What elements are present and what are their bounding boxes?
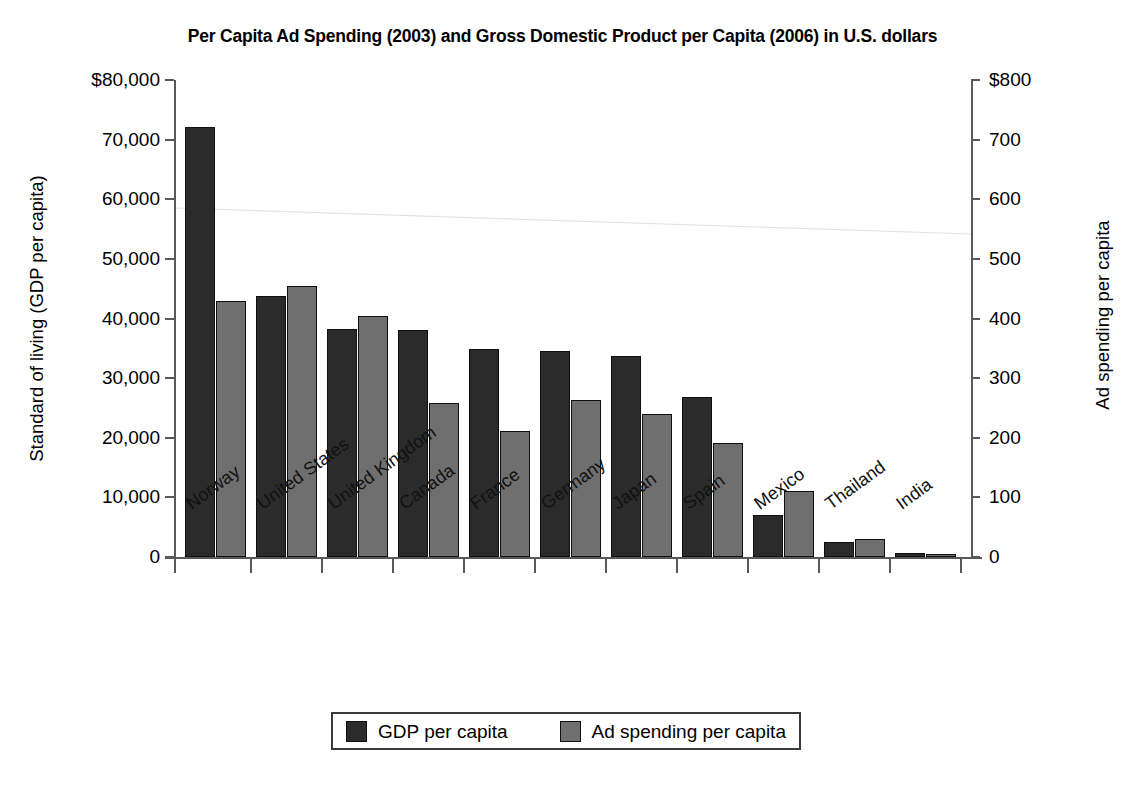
bar-gdp-per-capita[interactable] bbox=[469, 349, 499, 557]
legend-item[interactable]: GDP per capita bbox=[346, 721, 508, 742]
bar-gdp-per-capita[interactable] bbox=[256, 296, 286, 557]
bar-ad-spending-per-capita[interactable] bbox=[358, 316, 388, 557]
x-axis-tick bbox=[889, 559, 891, 573]
x-axis-tick bbox=[463, 559, 465, 573]
bar-ad-spending-per-capita[interactable] bbox=[216, 301, 246, 557]
left-axis-tick-label: 40,000 bbox=[10, 309, 176, 328]
chart-title: Per Capita Ad Spending (2003) and Gross … bbox=[0, 26, 1125, 47]
chart-legend: GDP per capitaAd spending per capita bbox=[331, 712, 801, 750]
right-axis-tick-label: 300 bbox=[971, 368, 1021, 387]
right-axis-tick-label: $800 bbox=[971, 70, 1031, 89]
bar-ad-spending-per-capita[interactable] bbox=[926, 554, 956, 557]
bar-gdp-per-capita[interactable] bbox=[895, 553, 925, 557]
x-axis-tick bbox=[747, 559, 749, 573]
x-axis-tick bbox=[605, 559, 607, 573]
right-axis-tick-label: 500 bbox=[971, 249, 1021, 268]
chart-container: Per Capita Ad Spending (2003) and Gross … bbox=[0, 0, 1125, 799]
right-axis-tick-label: 600 bbox=[971, 189, 1021, 208]
legend-swatch bbox=[560, 721, 581, 742]
right-axis-tick-label: 700 bbox=[971, 130, 1021, 149]
y-axis-title-right: Ad spending per capita bbox=[1090, 150, 1116, 480]
legend-item[interactable]: Ad spending per capita bbox=[560, 721, 786, 742]
left-axis-tick-label: 60,000 bbox=[10, 189, 176, 208]
left-axis-tick-label: 10,000 bbox=[10, 487, 176, 506]
right-axis-tick-label: 200 bbox=[971, 428, 1021, 447]
left-axis-tick-label: 30,000 bbox=[10, 368, 176, 387]
bar-gdp-per-capita[interactable] bbox=[611, 356, 641, 557]
right-axis-tick-label: 0 bbox=[971, 547, 1000, 566]
bar-ad-spending-per-capita[interactable] bbox=[784, 491, 814, 557]
x-axis-tick bbox=[321, 559, 323, 573]
legend-label: GDP per capita bbox=[378, 722, 508, 741]
left-axis-tick-label: 20,000 bbox=[10, 428, 176, 447]
left-axis-tick-label: 70,000 bbox=[10, 130, 176, 149]
bar-gdp-per-capita[interactable] bbox=[753, 515, 783, 557]
bar-ad-spending-per-capita[interactable] bbox=[855, 539, 885, 557]
x-axis-tick bbox=[174, 559, 176, 573]
x-axis-tick bbox=[392, 559, 394, 573]
x-axis-tick bbox=[534, 559, 536, 573]
legend-swatch bbox=[346, 721, 367, 742]
left-axis-tick-label: $80,000 bbox=[10, 70, 176, 89]
x-axis-line bbox=[165, 557, 982, 559]
x-axis-tick bbox=[960, 559, 962, 573]
bar-gdp-per-capita[interactable] bbox=[540, 351, 570, 557]
left-axis-tick-label: 0 bbox=[10, 547, 176, 566]
bar-ad-spending-per-capita[interactable] bbox=[713, 443, 743, 557]
bar-ad-spending-per-capita[interactable] bbox=[287, 286, 317, 557]
left-axis-tick-label: 50,000 bbox=[10, 249, 176, 268]
right-axis-tick-label: 400 bbox=[971, 309, 1021, 328]
bar-gdp-per-capita[interactable] bbox=[824, 542, 854, 558]
x-axis-tick bbox=[250, 559, 252, 573]
x-axis-tick bbox=[818, 559, 820, 573]
legend-label: Ad spending per capita bbox=[592, 722, 786, 741]
x-axis-tick bbox=[676, 559, 678, 573]
right-axis-tick-label: 100 bbox=[971, 487, 1021, 506]
